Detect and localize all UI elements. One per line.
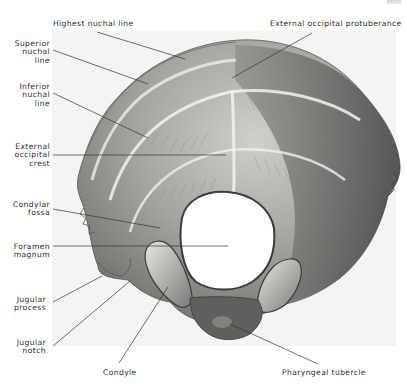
label-jugular-notch: Jugular notch <box>2 339 46 356</box>
leader-superior-nuchal-line <box>53 50 148 84</box>
leader-condyle <box>119 287 168 363</box>
leader-highest-nuchal-line <box>97 32 185 59</box>
label-foramen-magnum: Foramen magnum <box>2 243 50 260</box>
label-external-occipital-protuberance: External occipital protuberance <box>270 20 402 28</box>
occipital-bone-drawing <box>0 0 407 386</box>
label-inferior-nuchal-line: Inferior nuchal line <box>6 83 50 108</box>
label-pharyngeal-tubercle: Pharyngeal tubercle <box>282 369 366 377</box>
leader-jugular-process <box>53 276 102 302</box>
label-condyle: Condyle <box>103 369 137 377</box>
label-highest-nuchal-line: Highest nuchal line <box>53 20 134 28</box>
foramen-magnum <box>181 192 275 290</box>
label-jugular-process: Jugular process <box>2 296 46 313</box>
label-external-occipital-crest: External occipital crest <box>2 143 50 168</box>
leader-pharyngeal-tubercle <box>230 324 318 364</box>
anatomy-figure: Highest nuchal line External occipital p… <box>0 0 407 386</box>
label-condylar-fossa: Condylar fossa <box>2 201 50 218</box>
leader-jugular-notch <box>53 281 130 346</box>
label-superior-nuchal-line: Superior nuchal line <box>6 40 50 65</box>
